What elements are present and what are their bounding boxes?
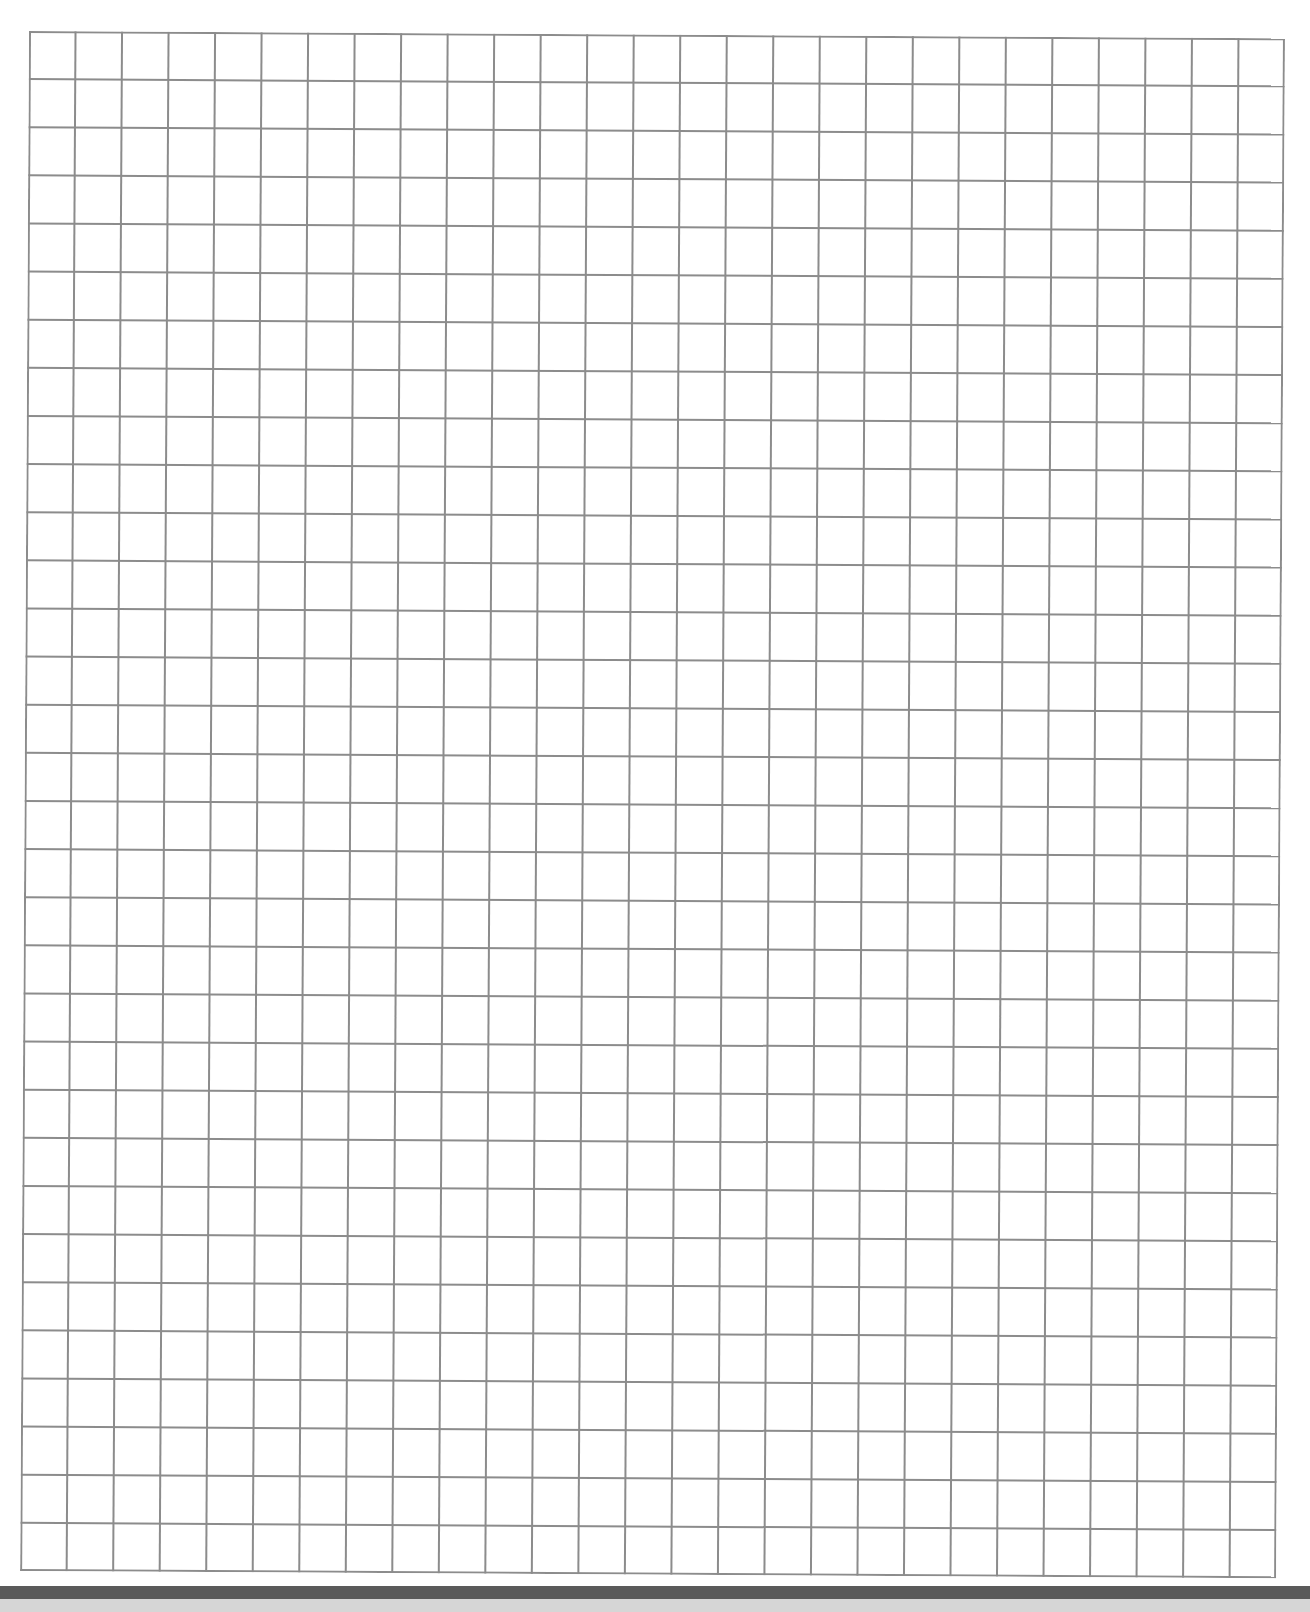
graph-paper-sheet bbox=[0, 0, 1310, 1585]
grid-lines bbox=[20, 31, 1285, 1578]
grid bbox=[20, 31, 1285, 1578]
bottom-dark-bar bbox=[0, 1586, 1310, 1599]
bottom-gray-strip bbox=[0, 1599, 1310, 1612]
